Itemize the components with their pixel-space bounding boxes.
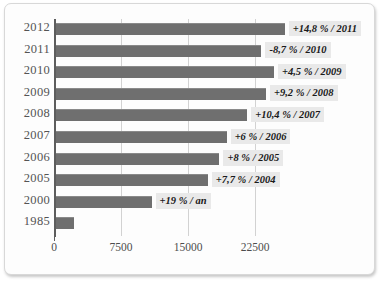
bar-row: 2008+10,4 % / 2007 <box>0 105 383 126</box>
x-tick-22500: 22500 <box>241 241 270 253</box>
category-label-2008: 2008 <box>6 106 50 121</box>
category-label-2006: 2006 <box>6 150 50 165</box>
category-label-2011: 2011 <box>6 42 50 57</box>
bar-1985 <box>56 217 74 229</box>
bar-2009 <box>56 88 266 100</box>
bar-row: 2010+4,5 % / 2009 <box>0 62 383 83</box>
category-label-2000: 2000 <box>6 193 50 208</box>
bar-2005 <box>56 174 208 186</box>
value-label-2008: +10,4 % / 2007 <box>251 107 324 123</box>
bar-2006 <box>56 153 219 165</box>
category-label-2005: 2005 <box>6 171 50 186</box>
category-label-2010: 2010 <box>6 63 50 78</box>
value-label-2007: +6 % / 2006 <box>231 129 291 145</box>
bar-2012 <box>56 23 285 35</box>
bar-2011 <box>56 45 261 57</box>
value-label-2011: -8,7 % / 2010 <box>265 42 330 58</box>
bar-row: 2007+6 % / 2006 <box>0 127 383 148</box>
x-tick-7500: 7500 <box>110 241 133 253</box>
bar-2000 <box>56 196 152 208</box>
value-label-2000: +19 % / an <box>156 193 211 209</box>
value-label-2006: +8 % / 2005 <box>223 150 283 166</box>
value-label-2010: +4,5 % / 2009 <box>278 64 346 80</box>
category-label-2009: 2009 <box>6 85 50 100</box>
x-tick-0: 0 <box>51 241 57 253</box>
bar-2007 <box>56 131 227 143</box>
chart-screenshot: 2012+14,8 % / 20112011-8,7 % / 20102010+… <box>0 0 383 282</box>
value-label-2005: +7,7 % / 2004 <box>212 172 280 188</box>
category-label-2012: 2012 <box>6 20 50 35</box>
value-label-2009: +9,2 % / 2008 <box>270 85 338 101</box>
bar-2010 <box>56 66 274 78</box>
bar-row: 2005+7,7 % / 2004 <box>0 170 383 191</box>
bar-row: 2012+14,8 % / 2011 <box>0 19 383 40</box>
value-label-2012: +14,8 % / 2011 <box>289 21 361 37</box>
category-label-1985: 1985 <box>6 214 50 229</box>
bar-row: 2009+9,2 % / 2008 <box>0 84 383 105</box>
bar-row: 2006+8 % / 2005 <box>0 149 383 170</box>
plot-area: 2012+14,8 % / 20112011-8,7 % / 20102010+… <box>0 0 383 282</box>
category-label-2007: 2007 <box>6 128 50 143</box>
bar-row: 2011-8,7 % / 2010 <box>0 41 383 62</box>
x-tick-15000: 15000 <box>174 241 203 253</box>
bar-row: 2000+19 % / an <box>0 192 383 213</box>
bar-row: 1985 <box>0 213 383 234</box>
bar-2008 <box>56 109 247 121</box>
